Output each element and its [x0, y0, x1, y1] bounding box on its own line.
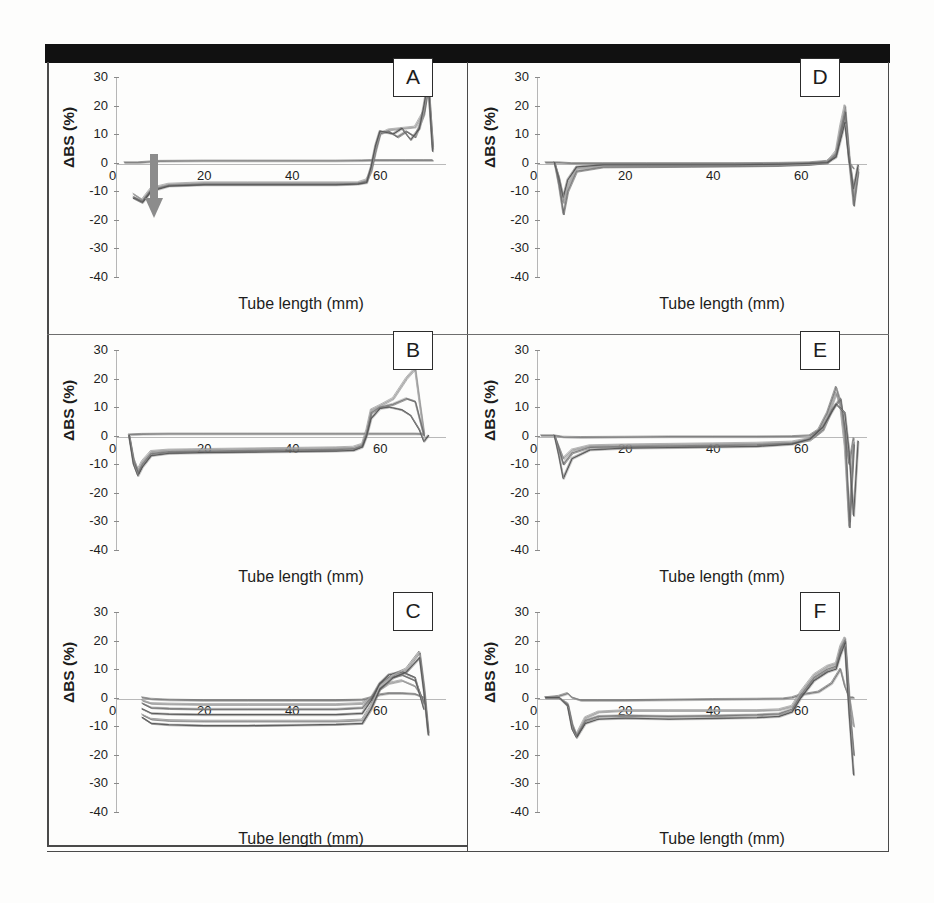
curve-trace	[555, 106, 859, 203]
curve-trace	[128, 406, 427, 475]
figure-root: 3020100-10-20-30-40ΔBS (%)0204060Tube le…	[0, 0, 934, 903]
curve-trace	[142, 651, 428, 731]
curve-trace	[542, 388, 854, 465]
curve-trace	[555, 404, 859, 515]
curve-plot-d	[469, 63, 889, 308]
curve-trace	[546, 117, 854, 168]
curve-trace	[555, 124, 859, 198]
curve-plot-a	[48, 63, 468, 308]
curve-trace	[546, 641, 854, 755]
curve-trace	[554, 403, 858, 514]
panel-e: 3020100-10-20-30-40ΔBS (%)0204060Tube le…	[469, 336, 889, 598]
curve-trace	[555, 399, 854, 528]
panel-label-d: D	[800, 58, 840, 97]
curve-trace	[555, 106, 859, 203]
curve-trace	[554, 122, 858, 196]
panel-label-e: E	[800, 331, 840, 370]
curve-trace	[130, 435, 425, 436]
panel-a: 3020100-10-20-30-40ΔBS (%)0204060Tube le…	[48, 63, 468, 325]
panel-label-c: C	[393, 592, 433, 631]
panel-label-b: B	[393, 331, 433, 370]
curve-trace	[541, 387, 853, 464]
curve-trace	[129, 369, 424, 470]
curve-plot-f	[469, 598, 889, 843]
curve-trace	[545, 643, 853, 774]
curve-trace	[545, 116, 853, 167]
curve-trace	[129, 407, 428, 476]
top-black-bar	[45, 44, 890, 63]
curve-trace	[130, 369, 425, 470]
panel-b: 3020100-10-20-30-40ΔBS (%)0204060Tube le…	[48, 336, 468, 598]
curve-trace	[555, 399, 854, 528]
curve-plot-b	[48, 336, 468, 581]
panel-label-f: F	[800, 592, 840, 631]
curve-trace	[130, 408, 429, 477]
curve-trace	[546, 643, 854, 774]
divider-row1-row2	[47, 334, 889, 335]
panel-label-a: A	[393, 58, 433, 97]
down-arrow-icon	[144, 154, 174, 232]
curve-trace	[130, 399, 425, 473]
curve-trace	[554, 398, 853, 527]
curve-trace	[555, 123, 859, 197]
curve-trace	[142, 658, 428, 735]
curve-trace	[554, 392, 853, 521]
panel-f: 3020100-10-20-30-40ΔBS (%)0204060Tube le…	[469, 598, 889, 860]
curve-trace	[555, 394, 854, 523]
curve-plot-e	[469, 336, 889, 581]
curve-trace	[554, 105, 858, 202]
curve-trace	[555, 393, 854, 522]
curve-plot-c	[48, 598, 468, 843]
panel-d: 3020100-10-20-30-40ΔBS (%)0204060Tube le…	[469, 63, 889, 325]
panel-c: 3020100-10-20-30-40ΔBS (%)0204060Tube le…	[48, 598, 468, 860]
curve-trace	[555, 405, 859, 516]
curve-trace	[545, 640, 853, 754]
